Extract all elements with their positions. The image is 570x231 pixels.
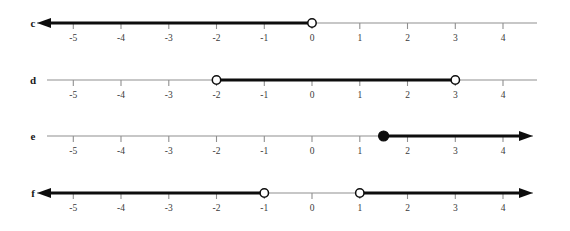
tick-label: -4 — [117, 203, 125, 213]
tick-label: -2 — [213, 90, 221, 100]
tick-label: 1 — [357, 33, 362, 43]
open-point-marker — [212, 76, 220, 84]
tick-label: -4 — [117, 33, 125, 43]
tick-label: 2 — [405, 33, 410, 43]
open-point-marker — [260, 189, 268, 197]
tick-label: -3 — [165, 146, 173, 156]
row-label-e: e — [31, 130, 36, 142]
tick-label: -1 — [260, 90, 268, 100]
number-line-row-e: e -5 -4 -3 -2 -1 0 1 2 3 4 — [31, 130, 533, 156]
tick-label: 3 — [453, 146, 458, 156]
tick-label: -4 — [117, 90, 125, 100]
tick-label: -3 — [165, 33, 173, 43]
row-label-d: d — [30, 74, 36, 86]
tick-label: 4 — [501, 33, 506, 43]
tick-label: -5 — [69, 90, 77, 100]
tick-label: -1 — [260, 146, 268, 156]
tick-label: -2 — [213, 146, 221, 156]
tick-label: 4 — [501, 90, 506, 100]
arrow-head-left-icon — [37, 18, 51, 28]
number-line-row-d: d -5 -4 -3 -2 -1 0 1 2 3 4 — [30, 74, 537, 100]
arrow-head-right-icon — [519, 188, 533, 198]
tick-label-group-c: -5 -4 -3 -2 -1 0 1 2 3 4 — [69, 33, 505, 43]
arrow-head-right-icon — [519, 131, 533, 141]
tick-label: 3 — [453, 90, 458, 100]
number-line-figure: c -5 -4 -3 -2 -1 0 1 2 3 4 — [0, 0, 570, 231]
open-point-marker — [451, 76, 459, 84]
tick-label: 3 — [453, 203, 458, 213]
tick-label-group-d: -5 -4 -3 -2 -1 0 1 2 3 4 — [69, 90, 505, 100]
tick-label: 2 — [405, 203, 410, 213]
tick-label: 3 — [453, 33, 458, 43]
number-line-row-c: c -5 -4 -3 -2 -1 0 1 2 3 4 — [31, 17, 537, 43]
tick-label: 1 — [357, 90, 362, 100]
tick-label: 0 — [310, 146, 315, 156]
tick-label: -5 — [69, 146, 77, 156]
tick-label: -5 — [69, 203, 77, 213]
tick-label: 2 — [405, 90, 410, 100]
open-point-marker — [308, 19, 316, 27]
row-label-f: f — [31, 187, 35, 199]
tick-label: 0 — [310, 33, 315, 43]
tick-label: 2 — [405, 146, 410, 156]
closed-point-marker — [379, 131, 389, 141]
tick-label: -3 — [165, 90, 173, 100]
tick-label: -2 — [213, 203, 221, 213]
tick-label: 1 — [357, 146, 362, 156]
tick-label-group-f: -5 -4 -3 -2 -1 0 1 2 3 4 — [69, 203, 505, 213]
tick-label: 4 — [501, 203, 506, 213]
open-point-marker — [356, 189, 364, 197]
arrow-head-left-icon — [37, 188, 51, 198]
number-line-row-f: f -5 -4 -3 -2 -1 0 1 2 3 4 — [31, 187, 533, 213]
tick-label: -1 — [260, 33, 268, 43]
tick-label: 4 — [501, 146, 506, 156]
tick-label-group-e: -5 -4 -3 -2 -1 0 1 2 3 4 — [69, 146, 505, 156]
tick-label: -5 — [69, 33, 77, 43]
tick-label: -1 — [260, 203, 268, 213]
row-label-c: c — [31, 17, 36, 29]
tick-label: -3 — [165, 203, 173, 213]
tick-label: -4 — [117, 146, 125, 156]
tick-label: -2 — [213, 33, 221, 43]
tick-label: 0 — [310, 90, 315, 100]
tick-label: 0 — [310, 203, 315, 213]
tick-label: 1 — [357, 203, 362, 213]
